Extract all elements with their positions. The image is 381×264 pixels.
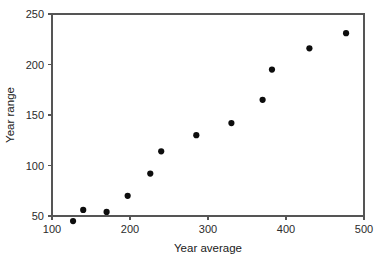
x-tick-label: 300	[199, 223, 217, 235]
y-axis-title: Year range	[4, 87, 16, 143]
plot-canvas: 100200300400500 50100150200250 Year aver…	[0, 0, 381, 264]
x-tick-label: 500	[355, 223, 373, 235]
y-tick-label: 200	[26, 59, 44, 71]
data-point	[193, 132, 199, 138]
data-point	[228, 120, 234, 126]
y-tick-label: 50	[32, 210, 44, 222]
data-point	[104, 209, 110, 215]
data-point	[70, 218, 76, 224]
x-tick-label: 100	[43, 223, 61, 235]
y-tick-label: 100	[26, 160, 44, 172]
data-point	[125, 193, 131, 199]
x-tick-label: 400	[277, 223, 295, 235]
y-axis-ticks: 50100150200250	[26, 8, 52, 222]
x-axis-title: Year average	[174, 242, 242, 254]
data-points-layer	[70, 30, 349, 224]
x-axis-ticks: 100200300400500	[43, 216, 373, 235]
data-point	[80, 207, 86, 213]
data-point	[343, 30, 349, 36]
data-point	[269, 66, 275, 72]
x-tick-label: 200	[121, 223, 139, 235]
y-tick-label: 250	[26, 8, 44, 20]
frame-border	[52, 14, 364, 216]
data-point	[158, 148, 164, 154]
data-point	[306, 45, 312, 51]
data-point	[147, 170, 153, 176]
plot-frame	[52, 14, 364, 216]
scatter-plot-figure: 100200300400500 50100150200250 Year aver…	[0, 0, 381, 264]
data-point	[260, 97, 266, 103]
y-tick-label: 150	[26, 109, 44, 121]
